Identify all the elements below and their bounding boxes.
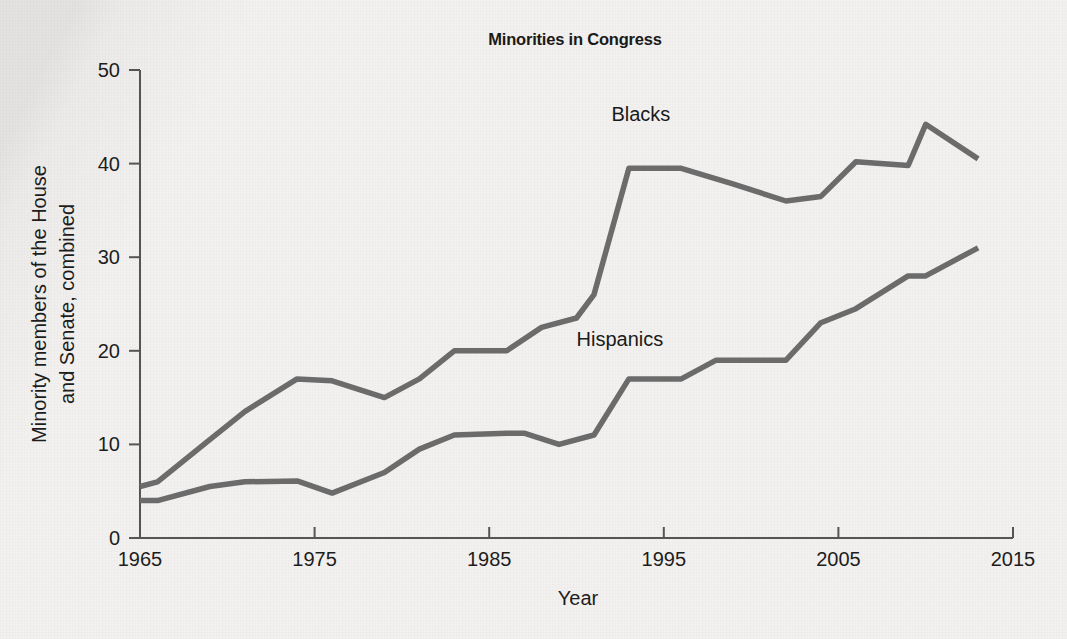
y-tick-label: 50 [98,59,120,81]
y-tick-label: 0 [109,527,120,549]
x-tick-label: 1965 [118,548,163,570]
y-axis-title-line2: and Senate, combined [56,204,78,404]
y-tick-label: 20 [98,340,120,362]
chart-title: Minorities in Congress [488,30,661,48]
axis-lines [140,70,1013,538]
y-axis-tick-labels: 01020304050 [98,59,120,549]
series-line-blacks [140,124,978,486]
x-tick-label: 1975 [292,548,337,570]
x-axis-title: Year [558,587,599,609]
series-line-hispanics [140,248,978,501]
x-tick-label: 2005 [816,548,861,570]
y-axis-title-line1: Minority members of the House [28,165,50,443]
x-tick-label: 2015 [991,548,1036,570]
y-tick-label: 10 [98,433,120,455]
minorities-in-congress-line-chart: Minorities in Congress 01020304050 19651… [0,0,1067,639]
x-tick-label: 1995 [642,548,687,570]
y-tick-label: 30 [98,246,120,268]
chart-page: Minorities in Congress 01020304050 19651… [0,0,1067,639]
x-axis-tick-labels: 196519751985199520052015 [118,548,1036,570]
x-axis-ticks [140,527,1013,538]
series-label-hispanics: Hispanics [577,328,664,350]
y-tick-label: 40 [98,153,120,175]
y-axis-title: Minority members of the House and Senate… [28,165,78,443]
series-label-blacks: Blacks [611,103,670,125]
y-axis-ticks [129,70,140,538]
x-tick-label: 1985 [467,548,512,570]
